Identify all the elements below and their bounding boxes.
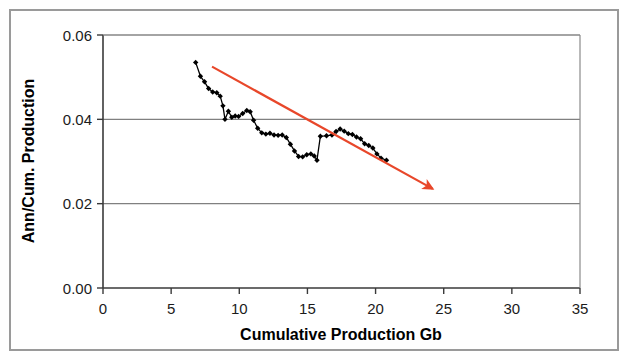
x-tick-label: 0 (99, 300, 107, 317)
y-tick-label: 0.02 (63, 195, 92, 212)
y-tick-label: 0.06 (63, 27, 92, 44)
x-axis-tick-labels: 05101520253035 (99, 300, 589, 317)
x-tick-label: 15 (299, 300, 316, 317)
x-tick-label: 30 (504, 300, 521, 317)
y-axis-tick-labels: 0.000.020.040.06 (63, 27, 92, 297)
x-axis-title: Cumulative Production Gb (240, 326, 442, 343)
plot-area-background (103, 35, 580, 288)
y-axis-title: Ann/Cum. Production (20, 79, 37, 243)
chart-canvas: 0.000.020.040.06 05101520253035 Cumulati… (0, 0, 630, 360)
x-axis-tickmarks (103, 288, 580, 294)
x-tick-label: 20 (367, 300, 384, 317)
x-tick-label: 10 (231, 300, 248, 317)
figure-root: 0.000.020.040.06 05101520253035 Cumulati… (0, 0, 630, 360)
y-axis-tickmarks (97, 35, 103, 288)
y-tick-label: 0.04 (63, 111, 92, 128)
x-tick-label: 5 (167, 300, 175, 317)
y-tick-label: 0.00 (63, 280, 92, 297)
x-tick-label: 25 (435, 300, 452, 317)
x-tick-label: 35 (572, 300, 589, 317)
